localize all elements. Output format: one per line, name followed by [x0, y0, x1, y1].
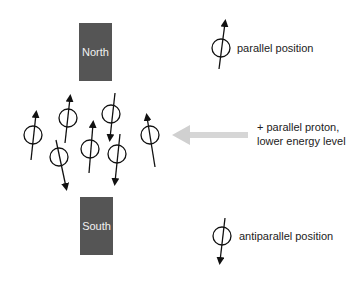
annotation-line-2: lower energy level	[257, 134, 346, 148]
proton-spin-up-icon	[59, 98, 77, 143]
legend-parallel-spin-icon	[212, 23, 230, 69]
parallel-proton-annotation: + parallel proton, lower energy level	[257, 120, 346, 148]
proton-spin-down-icon	[108, 134, 126, 182]
antiparallel-position-label: antiparallel position	[239, 229, 333, 243]
proton-spin-up-icon	[24, 114, 42, 160]
annotation-line-1: + parallel proton,	[257, 120, 346, 134]
parallel-position-label: parallel position	[237, 41, 313, 55]
mri-proton-alignment-diagram: North South	[0, 0, 356, 281]
proton-spin-down-icon	[50, 140, 68, 187]
left-arrow-icon	[172, 125, 248, 145]
proton-spin-up-icon	[141, 117, 159, 167]
proton-spin-down-icon	[102, 93, 120, 138]
legend-antiparallel-spin-icon	[213, 218, 231, 261]
proton-spin-up-icon	[81, 124, 99, 173]
